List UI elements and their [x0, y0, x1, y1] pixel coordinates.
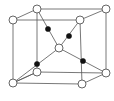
filled-atom: [80, 58, 85, 63]
corner-atom: [33, 5, 41, 13]
corner-atom: [102, 69, 110, 77]
corner-atom: [33, 68, 41, 76]
filled-atom: [34, 61, 39, 66]
center-atom: [55, 44, 63, 52]
corner-atom: [76, 16, 84, 24]
corner-atom: [9, 79, 17, 87]
crystal-structure-diagram: [0, 0, 114, 101]
corner-atom: [78, 80, 86, 88]
edge: [37, 72, 106, 73]
corner-atom: [102, 5, 110, 13]
filled-atom: [45, 26, 50, 31]
filled-atom: [66, 33, 71, 38]
edge: [13, 83, 82, 84]
corner-atom: [9, 16, 17, 24]
edge: [80, 20, 82, 84]
